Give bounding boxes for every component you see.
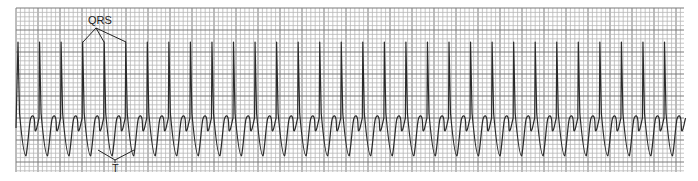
t-wave-label: T — [112, 162, 119, 174]
ecg-strip: QRS T — [0, 0, 698, 181]
qrs-label: QRS — [88, 14, 112, 26]
